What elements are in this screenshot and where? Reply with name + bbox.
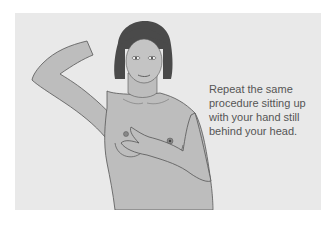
nipple-left — [124, 132, 129, 137]
instruction-caption: Repeat the same procedure sitting up wit… — [209, 82, 321, 138]
